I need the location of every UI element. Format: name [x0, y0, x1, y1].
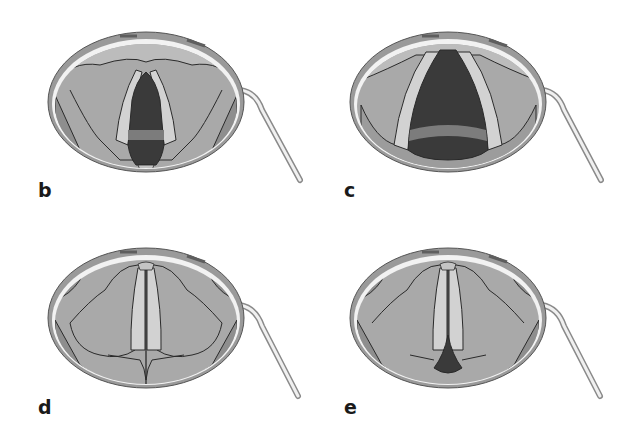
- panel-e: e: [316, 220, 632, 439]
- laryngeal-mirror-view-posterior-gap-icon: [316, 220, 632, 439]
- panel-d: d: [0, 220, 316, 439]
- panel-label-c: c: [344, 181, 355, 200]
- panel-label-d: d: [38, 398, 52, 417]
- laryngeal-mirror-view-wide-open-icon: [316, 0, 632, 219]
- panel-label-b: b: [38, 181, 52, 200]
- panel-label-e: e: [344, 398, 357, 417]
- panel-c: c: [316, 0, 632, 219]
- panel-b: b: [0, 0, 316, 219]
